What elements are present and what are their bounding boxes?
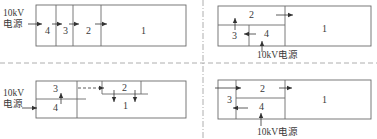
panel-top-right (218, 6, 371, 46)
diagram-canvas (0, 0, 377, 139)
source-label-bottom-right: 10kV电源 (257, 127, 298, 138)
source-text: 电源 (3, 99, 24, 110)
panel-top-left (36, 5, 186, 46)
zone-label: 4 (53, 103, 58, 113)
zone-label: 4 (264, 29, 269, 39)
zone-label: 2 (86, 26, 91, 36)
zone-label: 1 (141, 26, 146, 36)
source-voltage-text: 10kV (3, 88, 24, 99)
flow-arrows-bottom-left (22, 88, 135, 108)
zone-label: 2 (260, 84, 265, 94)
zone-label: 1 (322, 24, 327, 34)
zone-label: 3 (232, 31, 237, 41)
zone-label: 3 (63, 26, 68, 36)
zone-label: 4 (259, 102, 264, 112)
source-voltage-text: 10kV (3, 8, 24, 19)
zone-label: 1 (123, 101, 128, 111)
panel-bottom-left (36, 81, 186, 118)
source-text: 电源 (3, 19, 24, 30)
panel-bottom-right (218, 80, 371, 119)
zone-label: 1 (322, 95, 327, 105)
zone-label: 2 (122, 83, 127, 93)
zone-label: 4 (45, 26, 50, 36)
zone-label: 2 (249, 10, 254, 20)
zone-label: 3 (53, 84, 58, 94)
source-label-top-left: 10kV 电源 (3, 8, 24, 30)
source-label-top-right: 10kV电源 (257, 50, 298, 61)
source-label-bottom-left: 10kV 电源 (3, 88, 24, 110)
zone-label: 3 (227, 95, 232, 105)
